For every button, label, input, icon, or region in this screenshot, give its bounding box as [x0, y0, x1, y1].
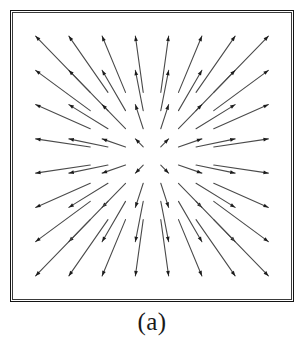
vector-arrow-shaft [196, 183, 235, 207]
vector-arrow-shaft [102, 36, 125, 92]
vector-arrow-head [165, 202, 169, 207]
vector-arrow-head [134, 271, 138, 276]
vector-arrow-head [197, 170, 202, 174]
vector-arrow-shaft [36, 105, 91, 129]
vector-arrow-head [231, 36, 235, 41]
vector-arrow-head [198, 70, 202, 75]
vector-arrow-shaft [69, 36, 108, 92]
quiver-arrow-group [36, 36, 269, 276]
vector-field-plot-frame [10, 10, 294, 302]
vector-arrow-shaft [178, 36, 201, 92]
vector-arrow-head [230, 203, 235, 207]
vector-arrow-head [198, 271, 202, 276]
vector-arrow-shaft [36, 165, 91, 173]
vector-arrow-head [198, 236, 202, 241]
vector-arrow-head [230, 105, 235, 109]
vector-arrow-shaft [196, 220, 235, 276]
vector-arrow-shaft [102, 201, 125, 241]
vector-arrow-shaft [214, 220, 269, 276]
vector-arrow-shaft [178, 201, 201, 241]
vector-arrow-shaft [214, 139, 269, 147]
vector-arrow-head [102, 170, 107, 174]
vector-arrow-shaft [178, 105, 201, 129]
vector-arrow-shaft [36, 201, 91, 241]
vector-arrow-shaft [196, 139, 235, 147]
vector-arrow-shaft [196, 165, 235, 173]
vector-arrow-shaft [196, 105, 235, 129]
vector-arrow-head [69, 36, 73, 41]
vector-arrow-head [134, 36, 138, 41]
vector-arrow-shaft [214, 201, 269, 241]
vector-arrow-head [36, 171, 41, 175]
vector-arrow-head [135, 202, 139, 207]
vector-arrow-shaft [69, 183, 108, 207]
vector-arrow-shaft [214, 165, 269, 173]
vector-arrow-head [102, 70, 106, 75]
vector-arrow-shaft [161, 36, 169, 92]
vector-arrow-head [165, 105, 169, 110]
vector-arrow-head [263, 171, 268, 175]
vector-arrow-shaft [102, 105, 125, 129]
vector-arrow-shaft [102, 70, 125, 110]
vector-arrow-head [102, 139, 107, 143]
vector-arrow-head [36, 204, 41, 208]
vector-arrow-head [36, 105, 41, 109]
vector-arrow-shaft [135, 70, 143, 110]
vector-arrow-shaft [161, 220, 169, 276]
vector-arrow-shaft [69, 165, 108, 173]
vector-arrow-shaft [214, 70, 269, 110]
vector-arrow-shaft [135, 201, 143, 241]
vector-arrow-shaft [135, 36, 143, 92]
vector-arrow-shaft [69, 105, 108, 129]
vector-arrow-head [135, 105, 139, 110]
figure-caption: (a) [0, 306, 304, 338]
vector-arrow-shaft [161, 70, 169, 110]
vector-arrow-head [231, 271, 235, 276]
vector-arrow-head [69, 271, 73, 276]
vector-arrow-shaft [36, 139, 91, 147]
vector-arrow-head [197, 139, 202, 143]
vector-arrow-shaft [102, 220, 125, 276]
vector-arrow-head [263, 204, 268, 208]
vector-arrow-head [69, 105, 74, 109]
vector-arrow-shaft [36, 70, 91, 110]
vector-arrow-head [36, 138, 41, 142]
vector-arrow-shaft [214, 183, 269, 207]
vector-arrow-head [69, 203, 74, 207]
vector-arrow-head [166, 271, 170, 276]
quiver-field-svg [11, 11, 293, 301]
vector-arrow-shaft [196, 36, 235, 92]
vector-arrow-shaft [36, 183, 91, 207]
vector-arrow-head [166, 36, 170, 41]
vector-arrow-shaft [178, 220, 201, 276]
vector-arrow-shaft [69, 139, 108, 147]
vector-arrow-shaft [161, 201, 169, 241]
vector-arrow-shaft [36, 220, 91, 276]
figure-panel: (a) [0, 0, 304, 353]
vector-arrow-head [263, 138, 268, 142]
vector-arrow-head [102, 271, 106, 276]
vector-arrow-head [102, 236, 106, 241]
vector-arrow-shaft [178, 70, 201, 110]
vector-arrow-shaft [135, 220, 143, 276]
vector-arrow-shaft [69, 220, 108, 276]
vector-arrow-head [198, 36, 202, 41]
vector-arrow-head [102, 36, 106, 41]
vector-arrow-head [263, 105, 268, 109]
vector-arrow-shaft [214, 105, 269, 129]
